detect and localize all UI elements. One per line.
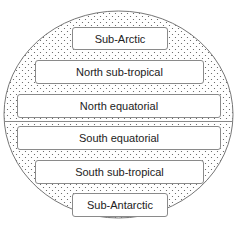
zone-label: South equatorial [79, 132, 159, 144]
zone-south-sub-tropical: South sub-tropical [35, 160, 204, 184]
zone-label: Sub-Antarctic [87, 199, 153, 211]
zone-label: North equatorial [80, 100, 158, 112]
zone-sub-antarctic: Sub-Antarctic [72, 193, 168, 217]
zone-north-sub-tropical: North sub-tropical [35, 60, 204, 84]
zone-sub-arctic: Sub-Arctic [72, 27, 168, 50]
zone-label: South sub-tropical [75, 166, 164, 178]
zone-north-equatorial: North equatorial [17, 94, 221, 118]
zone-south-equatorial: South equatorial [17, 126, 221, 150]
zone-label: North sub-tropical [76, 66, 163, 78]
zone-label: Sub-Arctic [95, 33, 146, 45]
